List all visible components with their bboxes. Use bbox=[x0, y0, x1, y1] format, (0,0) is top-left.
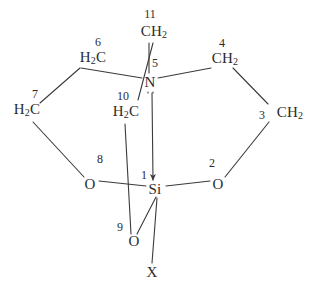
locant-3: 3 bbox=[259, 109, 265, 121]
bond-o8-c7 bbox=[33, 122, 84, 177]
locant-5: 5 bbox=[152, 57, 158, 69]
bond-lines-layer bbox=[0, 0, 310, 289]
locant-4: 4 bbox=[219, 37, 225, 49]
bond-n-si bbox=[152, 93, 153, 180]
locant-6: 6 bbox=[95, 36, 101, 48]
locant-9: 9 bbox=[117, 221, 123, 233]
nitrogen-lone-pair-icon bbox=[147, 92, 156, 95]
bond-si-o8 bbox=[99, 181, 146, 186]
chemical-structure-diagram: SiNOOOCH2CH2H2CH2CH2CCH2X 1234567891011 bbox=[0, 0, 310, 289]
bond-si-o2 bbox=[166, 181, 210, 186]
atom-label-c4: CH2 bbox=[212, 51, 238, 68]
locant-11: 11 bbox=[144, 8, 156, 20]
locant-7: 7 bbox=[32, 88, 38, 100]
atom-label-o9: O bbox=[128, 234, 139, 249]
bond-c6-n bbox=[81, 68, 142, 78]
bond-o2-c3 bbox=[225, 122, 269, 177]
atom-label-c3: CH2 bbox=[277, 105, 303, 122]
bond-c10-o9 bbox=[125, 124, 131, 234]
atom-label-c11: CH2 bbox=[141, 24, 167, 41]
locant-10: 10 bbox=[117, 90, 129, 102]
atom-label-o2: O bbox=[212, 177, 223, 192]
atom-label-o8: O bbox=[84, 177, 95, 192]
locant-1: 1 bbox=[141, 169, 147, 181]
atom-label-c6: H2C bbox=[80, 50, 106, 67]
atom-label-si: Si bbox=[149, 182, 162, 197]
bond-c4-n bbox=[158, 68, 211, 78]
bond-si-o9 bbox=[137, 197, 156, 234]
bond-c3-c4 bbox=[233, 68, 268, 104]
bond-c7-c6 bbox=[40, 68, 80, 103]
atom-label-n: N bbox=[144, 75, 155, 90]
locant-8: 8 bbox=[97, 153, 103, 165]
locant-2: 2 bbox=[209, 157, 215, 169]
atom-label-x: X bbox=[146, 265, 157, 280]
atom-label-c7: H2C bbox=[14, 102, 40, 119]
atom-label-c10: H2C bbox=[113, 104, 139, 121]
bond-si-x bbox=[152, 198, 157, 263]
